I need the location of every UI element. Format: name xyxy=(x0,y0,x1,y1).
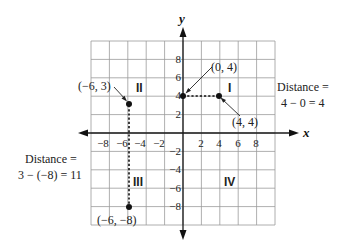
point-label-0-4: (0, 4) xyxy=(211,60,237,74)
x-tick: 8 xyxy=(253,137,259,149)
x-tick: −2 xyxy=(153,137,165,149)
quadrant-label-IV: IV xyxy=(224,175,235,189)
coordinate-plane-diagram: x y −8 −6 −4 −2 2 4 6 8 8 6 4 2 −2 −4 −6… xyxy=(0,0,344,247)
x-tick: 4 xyxy=(216,137,222,149)
quadrant-label-III: III xyxy=(133,175,143,189)
left-distance-line2: 3 − (−8) = 11 xyxy=(18,168,82,182)
x-axis-right-arrow-icon xyxy=(289,130,299,137)
pointer-4-4 xyxy=(222,99,240,116)
pointer-0-4 xyxy=(187,67,212,92)
point-0-4 xyxy=(180,93,186,99)
y-tick: −4 xyxy=(169,163,181,175)
y-tick: 8 xyxy=(176,53,182,65)
right-distance-line1: Distance = xyxy=(277,80,329,94)
right-distance-line2: 4 − 0 = 4 xyxy=(281,96,325,110)
x-tick: 6 xyxy=(235,137,241,149)
y-tick: −6 xyxy=(169,182,181,194)
quadrant-label-II: II xyxy=(136,81,143,95)
point-label-neg6-3: (−6, 3) xyxy=(78,79,111,93)
y-axis-label: y xyxy=(177,11,185,26)
x-axis-left-arrow-icon xyxy=(78,130,88,137)
point-label-neg6-neg8: (−6, −8) xyxy=(97,213,137,227)
x-tick: 2 xyxy=(198,137,204,149)
y-tick: 6 xyxy=(176,71,182,83)
x-tick: −4 xyxy=(134,137,146,149)
point-neg6-neg8 xyxy=(126,204,132,210)
x-tick: −8 xyxy=(97,137,109,149)
left-distance-line1: Distance = xyxy=(25,152,77,166)
y-tick: 2 xyxy=(176,108,182,120)
y-axis-down-arrow-icon xyxy=(180,230,187,240)
y-axis-up-arrow-icon xyxy=(180,27,187,37)
x-tick: −6 xyxy=(116,137,128,149)
quadrant-label-I: I xyxy=(228,81,231,95)
point-label-4-4: (4, 4) xyxy=(232,115,258,129)
point-neg6-3 xyxy=(126,101,132,107)
y-tick: −2 xyxy=(169,145,181,157)
x-axis-label: x xyxy=(302,125,310,140)
y-tick: −8 xyxy=(169,200,181,212)
